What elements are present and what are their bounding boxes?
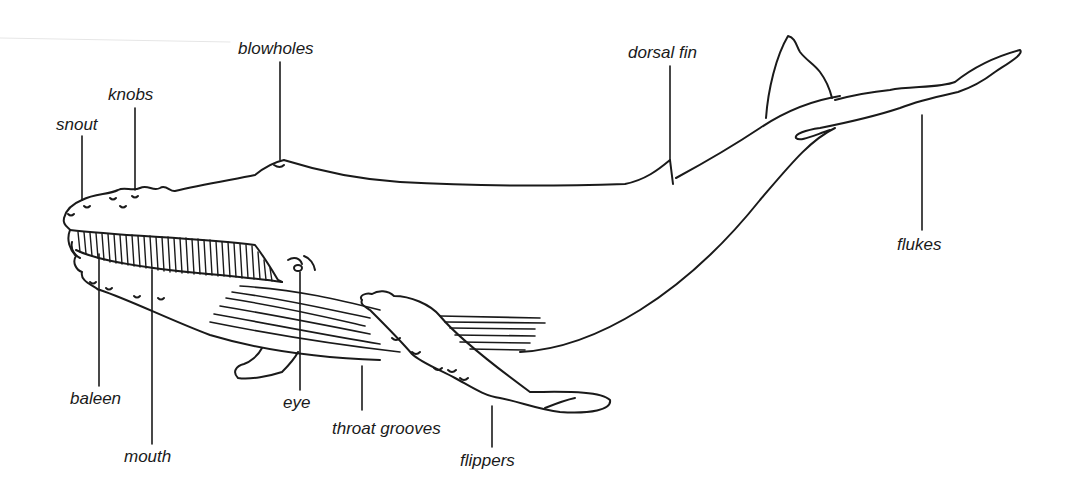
label-knobs: knobs [108, 86, 153, 103]
scan-artifact [0, 38, 230, 42]
label-dorsal-fin: dorsal fin [628, 44, 697, 61]
label-blowholes: blowholes [238, 40, 314, 57]
label-flukes: flukes [897, 236, 941, 253]
lower-fluke [796, 50, 1021, 139]
label-eye: eye [283, 394, 310, 411]
throat-grooves-lines [210, 286, 545, 352]
whale-diagram: snout knobs blowholes dorsal fin flukes … [0, 0, 1067, 502]
upper-fluke [766, 36, 832, 118]
whale-body-outline [64, 96, 840, 360]
flipper-tip-line [545, 398, 575, 408]
label-snout: snout [56, 116, 98, 133]
label-throat-grooves: throat grooves [332, 420, 441, 437]
eye-illustration [288, 256, 315, 271]
baleen-plates [70, 230, 282, 282]
label-baleen: baleen [70, 390, 121, 407]
label-flippers: flippers [460, 452, 515, 469]
label-mouth: mouth [124, 448, 171, 465]
leader-lines [82, 62, 922, 447]
